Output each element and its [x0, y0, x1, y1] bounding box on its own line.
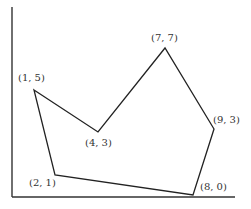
polygon-diagram: (1, 5)(4, 3)(7, 7)(9, 3)(8, 0)(2, 1)	[0, 0, 251, 209]
vertex-label: (9, 3)	[213, 114, 240, 125]
vertex-label: (7, 7)	[151, 32, 178, 43]
vertex-labels: (1, 5)(4, 3)(7, 7)(9, 3)(8, 0)(2, 1)	[18, 32, 240, 192]
vertex-label: (4, 3)	[85, 137, 112, 148]
vertex-label: (8, 0)	[200, 181, 227, 192]
hexagon-outline	[34, 48, 214, 195]
vertex-label: (2, 1)	[29, 177, 56, 188]
vertex-label: (1, 5)	[18, 72, 45, 83]
